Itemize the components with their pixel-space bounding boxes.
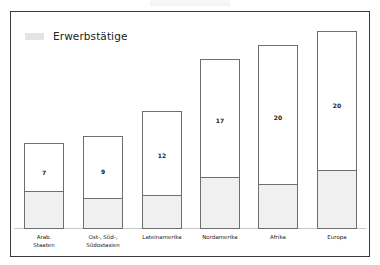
bar-value-label: 12 [143,152,181,159]
legend: Erwerbstätige [25,28,127,44]
legend-label: Erwerbstätige [53,30,127,42]
bar-afrika: 20 [258,45,298,229]
chart-frame [10,11,370,257]
bar-fill-erwerbstaetige [201,177,239,228]
category-label: Arab. Staaten [14,233,74,249]
bar-fill-erwerbstaetige [25,191,63,228]
x-axis-baseline [14,228,366,229]
bar-fill-erwerbstaetige [259,184,297,228]
category-label: Afrika [248,233,308,241]
bar-value-label: 20 [318,102,356,109]
bar-fill-erwerbstaetige [143,195,181,228]
category-label: Ost-, Süd-, Südostasien [73,233,133,249]
bar-arab-staaten: 7 [24,143,64,229]
bar-ost-sued-suedostasien: 9 [83,136,123,229]
legend-swatch [25,33,44,40]
category-label: Nordamerika [190,233,250,241]
bar-lateinamerika: 12 [142,111,182,229]
bar-fill-erwerbstaetige [84,198,122,228]
category-label: Lateinamerika [132,233,192,241]
bar-value-label: 7 [25,169,63,176]
bar-nordamerika: 17 [200,59,240,229]
bar-fill-erwerbstaetige [318,170,356,228]
category-label: Europa [307,233,367,241]
bar-value-label: 9 [84,168,122,175]
bar-europa: 20 [317,31,357,229]
bar-value-label: 20 [259,114,297,121]
bar-value-label: 17 [201,117,239,124]
cropped-header-text [150,0,230,6]
